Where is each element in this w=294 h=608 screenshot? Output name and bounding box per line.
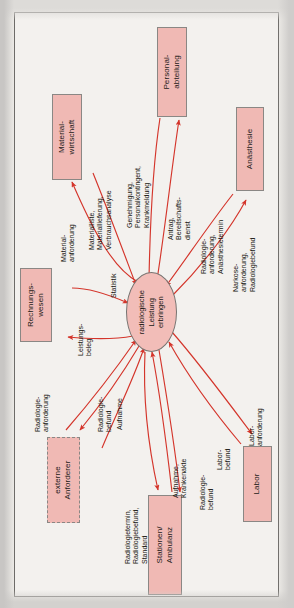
flow-arrow-f15 — [169, 342, 241, 444]
flow-label-laboranforderung: Labor-anforderung — [248, 408, 265, 446]
entity-label: Labor — [253, 474, 263, 495]
entity-label: externeAnforderer — [54, 461, 74, 500]
flow-label-leistungsbeleg: Leistungs-beleg — [77, 324, 94, 356]
flow-label-narkoseanforderung: Narkose-anforderung,Radiologiebefund — [232, 238, 257, 293]
flow-label-genehmigung: Genehmigung,Personalkontingent,Krankmeld… — [126, 166, 151, 228]
scanned-page: Material-wirtschaft Personal-abteilung A… — [0, 0, 294, 608]
flow-arrow-f16 — [172, 332, 252, 434]
flow-label-aufnahme: Aufnahme — [116, 398, 124, 430]
entity-label: Rechnungs-wesen — [26, 283, 46, 327]
flow-label-radiologiebefund-extern: Radiologie-befund — [97, 397, 114, 432]
process-radiologische-leistung-erbringen[interactable]: radiologischeLeistungerbringen — [126, 272, 177, 352]
flow-label-laborbefund: Labor-befund — [216, 449, 233, 470]
entity-label: Anästhesie — [245, 129, 255, 170]
entity-externe-anforderer[interactable]: externeAnforderer — [47, 437, 80, 523]
entity-rechnungswesen[interactable]: Rechnungs-wesen — [20, 268, 52, 342]
flow-label-statistik: Statistik — [110, 273, 118, 298]
entity-personalabteilung[interactable]: Personal-abteilung — [157, 27, 187, 117]
entity-label: Material-wirtschaft — [57, 120, 77, 155]
flow-label-aufnahme-krankenakte: Aufnahme,Krankenakte — [172, 459, 189, 498]
entity-label: Personal-abteilung — [162, 54, 182, 89]
entity-anaesthesie[interactable]: Anästhesie — [236, 107, 264, 191]
flow-label-radiologietermin-standard: Radiologietermin,Radiologiebefund,Standa… — [124, 508, 149, 564]
flow-label-material-anforderung: Material-anforderung — [60, 224, 77, 262]
flow-label-radiologiebefund-station: Radiologie-befund — [199, 475, 216, 510]
diagram-canvas: Material-wirtschaft Personal-abteilung A… — [0, 0, 294, 608]
flow-arrow-f7 — [72, 288, 128, 303]
flow-label-antrag-bereitschaftsdienst: Antrag,Bereitschafts-dienst — [167, 197, 192, 240]
entity-stationen-ambulanz[interactable]: Stationen/Ambulanz — [148, 495, 182, 595]
entity-label: Stationen/Ambulanz — [155, 526, 175, 563]
flow-label-radiologieanforderung-anaesthesietermin: Radiologie-anforderung,Anästhesietermin — [200, 220, 225, 274]
flow-label-radiologieanforderung: Radiologie-anforderung — [34, 394, 51, 432]
flow-arrow-f13 — [152, 352, 172, 492]
entity-materialwirtschaft[interactable]: Material-wirtschaft — [52, 94, 82, 180]
entity-labor[interactable]: Labor — [243, 446, 272, 522]
process-label: radiologischeLeistungerbringen — [137, 290, 166, 334]
flow-label-materialliste: Materialliste,Materiallieferung,Verbrauc… — [88, 190, 113, 250]
